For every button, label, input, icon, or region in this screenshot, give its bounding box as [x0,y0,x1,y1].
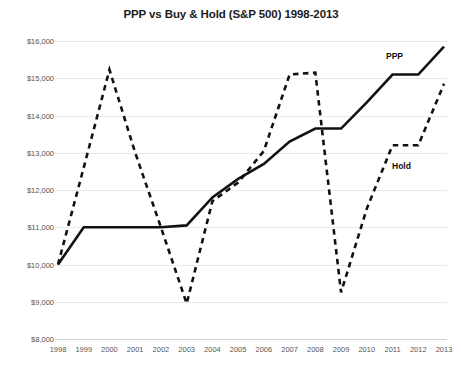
series-annotation-ppp: PPP [386,51,403,61]
y-axis-tick-label: $11,000 [8,223,54,232]
y-axis-tick-label: $15,000 [8,74,54,83]
y-axis-tick-label: $12,000 [8,186,54,195]
x-axis-tick-label: 2011 [384,345,400,354]
x-axis-tick-label: 1999 [75,345,92,354]
y-axis-tick-label: $13,000 [8,148,54,157]
x-axis-tick-label: 2008 [307,345,324,354]
x-axis-tick-label: 2012 [410,345,427,354]
gridline [55,339,447,340]
x-axis-tick-label: 2009 [333,345,350,354]
chart-title: PPP vs Buy & Hold (S&P 500) 1998-2013 [0,8,462,20]
series-annotation-hold: Hold [392,161,411,171]
x-axis-tick-label: 2005 [230,345,247,354]
y-axis-tick-label: $10,000 [8,260,54,269]
x-axis-tick-label: 1998 [50,345,67,354]
series-layer [55,41,447,339]
chart-container: PPP vs Buy & Hold (S&P 500) 1998-2013 $8… [0,0,462,374]
x-axis-tick-label: 2000 [101,345,118,354]
series-line-ppp [58,47,444,265]
x-axis-tick-label: 2002 [153,345,170,354]
y-axis-tick-label: $16,000 [8,37,54,46]
x-axis-tick-label: 2001 [127,345,144,354]
x-axis-tick-label: 2013 [436,345,453,354]
y-axis-tick-label: $9,000 [8,297,54,306]
plot-area [55,41,447,339]
x-axis-tick-label: 2003 [178,345,195,354]
x-axis-tick-label: 2010 [358,345,375,354]
x-axis-tick-label: 2007 [281,345,298,354]
series-line-hold [58,70,444,304]
x-axis-tick-label: 2006 [256,345,273,354]
y-axis-tick-label: $14,000 [8,111,54,120]
y-axis-tick-label: $8,000 [8,335,54,344]
x-axis-tick-label: 2004 [204,345,221,354]
